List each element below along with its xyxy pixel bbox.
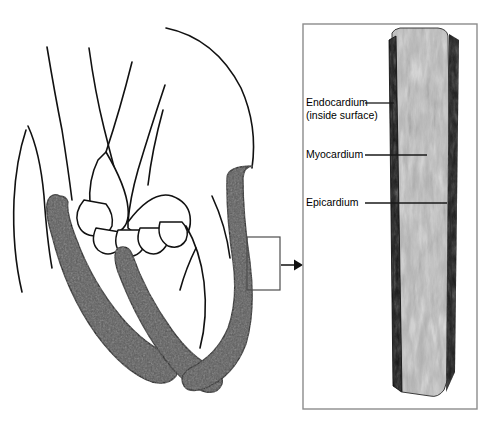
heart-wall-figure	[0, 0, 493, 434]
label-endocardium-sub: (inside surface)	[306, 109, 378, 121]
label-endocardium-text: Endocardium	[306, 96, 368, 108]
label-endocardium: Endocardium (inside surface)	[306, 96, 378, 121]
magnified-panel	[303, 24, 477, 410]
label-epicardium-text: Epicardium	[306, 196, 359, 208]
label-epicardium: Epicardium	[306, 196, 359, 209]
label-myocardium: Myocardium	[306, 148, 363, 161]
label-myocardium-text: Myocardium	[306, 148, 363, 160]
